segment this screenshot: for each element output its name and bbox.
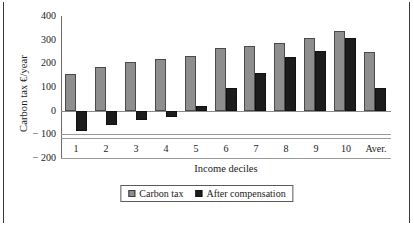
x-tick-label: 2 [91,139,121,158]
y-axis-title: Carbon tax €/year [18,24,29,164]
x-tick-label: 5 [181,139,211,158]
x-axis-title: Income deciles [61,163,391,174]
bar-after-compensation [285,57,296,111]
bar-group [361,16,391,158]
bar-carbon-tax [364,52,375,111]
bar-group [241,16,271,158]
y-tick-label: 200 [41,58,56,68]
x-tick-label: 8 [271,139,301,158]
bar-carbon-tax [215,48,226,110]
bar-group [122,16,152,158]
bar-group [182,16,212,158]
y-tick-label: 0 [51,106,56,116]
bar-after-compensation [226,88,237,111]
bar-group [62,16,92,158]
x-tick-label: 4 [151,139,181,158]
bar-group [331,16,361,158]
chart-figure: Carbon tax €/year 4003002001000− 100− 20… [0,0,414,225]
figure-left-rule [3,2,4,223]
bar-after-compensation [345,38,356,110]
plot-area: 4003002001000− 100− 200 [61,16,391,158]
bar-carbon-tax [95,67,106,111]
bar-after-compensation [255,73,266,111]
bar-after-compensation [166,111,177,117]
bar-after-compensation [106,111,117,126]
y-tick-label: − 100 [33,129,56,139]
bar-carbon-tax [334,31,345,111]
bar-carbon-tax [65,74,76,111]
bar-group [92,16,122,158]
bar-group [212,16,242,158]
y-tick-label: 100 [41,82,56,92]
x-tick-label: 1 [61,139,91,158]
bar-group [271,16,301,158]
x-tick-label: 3 [121,139,151,158]
figure-right-rule [409,2,410,223]
bar-group [152,16,182,158]
x-tick-label: 9 [301,139,331,158]
bar-groups [62,16,391,158]
legend-entry-carbon-tax: Carbon tax [128,188,183,199]
bar-group [301,16,331,158]
bar-carbon-tax [274,43,285,111]
bar-carbon-tax [125,62,136,111]
black-swatch-icon [196,190,203,197]
y-tick-label: 400 [41,11,56,21]
bar-carbon-tax [185,56,196,111]
x-tick-label: 7 [241,139,271,158]
bar-carbon-tax [244,46,255,111]
bar-after-compensation [136,111,147,120]
x-tick-label: 6 [211,139,241,158]
bar-after-compensation [196,106,207,111]
bar-after-compensation [315,51,326,111]
bar-carbon-tax [304,38,315,111]
legend-label-after-compensation: After compensation [207,188,286,199]
y-tick-label: − 200 [33,153,56,163]
bar-after-compensation [76,111,87,132]
x-tick-label: Aver. [361,139,391,158]
gray-swatch-icon [128,190,135,197]
y-tick-label: 300 [41,35,56,45]
chart-legend: Carbon tax After compensation [120,185,293,202]
bar-after-compensation [375,88,386,110]
x-tick-label: 10 [331,139,361,158]
x-axis-category-labels: 12345678910Aver. [61,138,391,159]
bar-carbon-tax [155,59,166,111]
legend-label-carbon-tax: Carbon tax [139,188,183,199]
legend-entry-after-compensation: After compensation [196,188,286,199]
